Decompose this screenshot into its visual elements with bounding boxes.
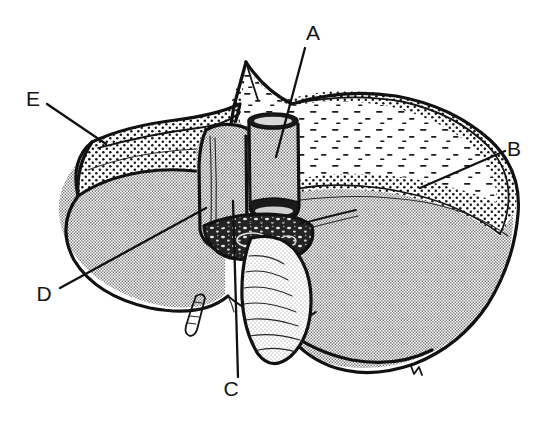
inferior-border-notch [411, 366, 422, 375]
leader-line-E [47, 104, 106, 144]
label-E: E [26, 87, 40, 110]
liver-diagram-figure: A B C D E [0, 0, 545, 423]
inferior-vena-cava [247, 113, 300, 220]
label-D: D [36, 282, 51, 305]
liver-diagram-canvas: A B C D E [0, 0, 545, 423]
label-A: A [306, 21, 320, 44]
notch-mark [411, 366, 422, 375]
label-C: C [223, 377, 238, 400]
label-B: B [507, 137, 521, 160]
